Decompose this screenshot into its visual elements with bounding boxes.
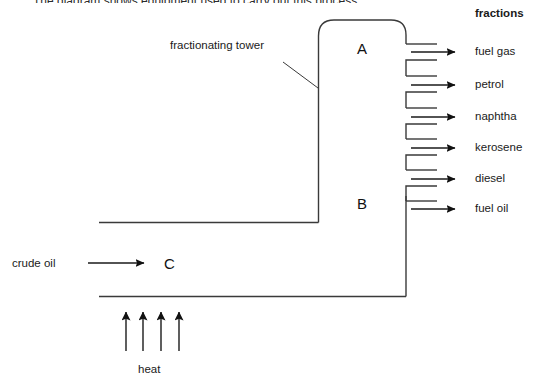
- tray-bracket-5: [406, 186, 437, 201]
- diagram-canvas: The diagram shows equipment used to carr…: [0, 0, 547, 392]
- tray-bracket-2: [406, 92, 437, 108]
- tray-bracket-3: [406, 124, 437, 139]
- heat-label: heat: [138, 364, 160, 376]
- fraction-label-kerosene: kerosene: [475, 142, 522, 154]
- fraction-label-fuel-gas: fuel gas: [475, 46, 515, 58]
- zone-label-b: B: [357, 196, 367, 211]
- zone-label-c: C: [164, 256, 175, 271]
- fraction-label-fuel-oil: fuel oil: [475, 203, 508, 215]
- tray-bracket-4: [406, 155, 437, 170]
- fraction-label-naphtha: naphtha: [475, 111, 517, 123]
- fraction-label-petrol: petrol: [475, 79, 504, 91]
- tray-bracket-1: [406, 60, 437, 76]
- fractionating-tower-label: fractionating tower: [170, 40, 264, 52]
- fractional-distillation-drawing: [0, 0, 547, 392]
- zone-label-a: A: [357, 41, 367, 56]
- tower-leader-line: [283, 62, 318, 88]
- fractions-heading: fractions: [475, 8, 524, 20]
- fraction-label-diesel: diesel: [475, 173, 505, 185]
- crude-oil-label: crude oil: [12, 258, 55, 270]
